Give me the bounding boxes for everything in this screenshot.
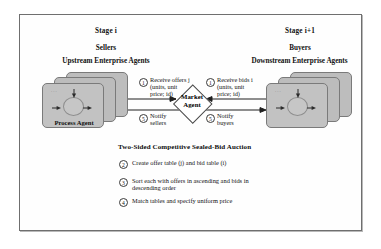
arrow-right-icon (307, 105, 316, 111)
step-number-4: 4 (119, 198, 128, 207)
auction-caption-title: Two-Sided Competitive Sealed-Bid Auction (118, 143, 251, 151)
step-text-3: Sort each with offers in ascending and b… (132, 177, 249, 191)
right-agents-label: Downstream Enterprise Agents (222, 57, 377, 65)
arrow-right-left-icon (276, 105, 285, 111)
ellipsis-marker: ... (51, 88, 58, 93)
flow-label-notify-buyers: Notify buyers (217, 113, 234, 127)
ellipsis-marker: ... (275, 88, 282, 93)
flow-line-3: price; id) (217, 90, 240, 97)
arrow-right-left-icon (52, 105, 61, 111)
agent-card-front[interactable]: ... Process Agent (42, 83, 104, 128)
step-line-1: Sort each with offers in ascending and b… (132, 177, 249, 184)
flow-number-notify-sellers: 5 (139, 114, 148, 123)
arrow-down-icon (71, 89, 77, 98)
flow-number-receive-offers: 1 (139, 78, 148, 87)
step-line-2: descending order (132, 184, 176, 191)
left-stage-label: Stage i (46, 27, 166, 35)
flow-label-notify-sellers: Notify sellers (150, 113, 166, 127)
figure-root: Stage i Sellers Upstream Enterprise Agen… (0, 0, 381, 249)
process-node-circle (287, 97, 308, 116)
flow-line-2: sellers (150, 119, 166, 126)
step-line-1: Create offer table (j) and bid table (i) (132, 159, 226, 166)
step-number-2: 2 (119, 160, 128, 169)
step-line-1: Match tables and specify uniform price (132, 197, 232, 204)
upstream-agent-stack[interactable]: ... Process Agent (42, 72, 128, 128)
right-stage-label: Stage i+1 (240, 27, 360, 35)
step-number-3: 3 (119, 178, 128, 187)
flow-number-notify-buyers: 5 (206, 114, 215, 123)
right-role-label: Buyers (240, 44, 360, 52)
left-agents-label: Upstream Enterprise Agents (31, 57, 181, 65)
process-agent-label: Process Agent (43, 119, 105, 126)
market-agent-line2: Agent (183, 101, 200, 108)
flow-label-receive-bids: Receive bids i (units, unit price; id) (217, 77, 253, 98)
flow-line-3: price; id) (150, 90, 173, 97)
arrow-right-icon (83, 105, 92, 111)
downstream-agent-stack[interactable]: ... (266, 72, 352, 128)
step-text-2: Create offer table (j) and bid table (i) (132, 159, 226, 166)
step-text-4: Match tables and specify uniform price (132, 197, 232, 204)
flow-line-2: buyers (217, 119, 234, 126)
arrow-down-icon (295, 89, 301, 98)
flow-number-receive-bids: 1 (206, 78, 215, 87)
flow-label-receive-offers: Receive offers j (units, unit price; id) (150, 77, 190, 98)
left-role-label: Sellers (46, 44, 166, 52)
process-node-circle (63, 97, 84, 116)
agent-card-front[interactable]: ... (266, 83, 328, 128)
